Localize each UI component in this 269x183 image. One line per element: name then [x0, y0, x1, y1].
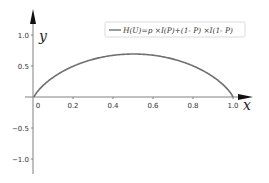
y-tick-label: −0.5 [12, 125, 29, 133]
x-ticks: 0 0.2 0.4 0.6 0.8 1.0 [36, 97, 239, 110]
x-tick-label: 0.4 [107, 102, 119, 110]
y-tick-label: 0.5 [18, 63, 29, 71]
legend: H(U)=p ×I(P)+(1- P) ×I(1- P) [105, 22, 245, 37]
entropy-chart: 1.0 0.5 −0.5 −1.0 0 0.2 0.4 0.6 0.8 1.0 … [0, 0, 269, 183]
x-tick-label: 0.8 [187, 102, 198, 110]
y-axis-title: y [38, 28, 48, 44]
entropy-curve [34, 54, 233, 97]
y-axis-arrow-icon [30, 9, 36, 24]
y-tick-label: 1.0 [18, 32, 29, 40]
x-axis-title: x [243, 97, 251, 113]
x-tick-label: 0.2 [67, 102, 78, 110]
x-tick-label: 1.0 [227, 102, 238, 110]
y-tick-label: −1.0 [12, 156, 29, 164]
legend-label: H(U)=p ×I(P)+(1- P) ×I(1- P) [122, 26, 233, 35]
x-tick-label: 0 [36, 102, 40, 110]
x-tick-label: 0.6 [147, 102, 159, 110]
